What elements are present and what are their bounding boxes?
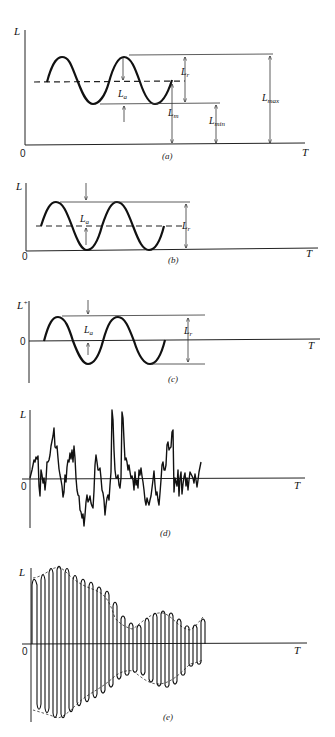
x-axis-label: T (294, 644, 301, 656)
panel-caption: (a) (162, 151, 173, 161)
panel-d: L T 0 (d) (19, 408, 305, 538)
x-axis-label: T (302, 146, 309, 158)
origin-label: 0 (22, 251, 28, 262)
alternating-label: La (79, 213, 90, 226)
panel-b: L T 0 (b) La Lr (15, 180, 318, 265)
oscillating-signal (32, 566, 205, 718)
y-axis-label: L (15, 180, 22, 192)
y-axis-label: L (13, 25, 20, 37)
y-axis-label: L (18, 566, 25, 578)
y-axis-label: L (19, 408, 26, 420)
max-label: Lmax (261, 92, 280, 105)
origin-label: 0 (22, 646, 28, 657)
max-line (62, 315, 205, 316)
panel-a: L T 0 (a) La Lr Lm Lmin Lmax (13, 25, 309, 161)
x-axis-label: T (306, 247, 313, 259)
panel-e: L T 0 (e) (18, 566, 307, 722)
panel-caption: (b) (168, 255, 179, 265)
sine-wave (47, 57, 172, 104)
origin-label: 0 (21, 481, 27, 492)
random-load-trace (30, 410, 201, 526)
x-axis-label: T (308, 339, 315, 351)
x-axis (26, 248, 318, 251)
x-axis (25, 143, 305, 145)
y-axis-label: L+ (16, 299, 28, 311)
panel-caption: (c) (168, 374, 178, 384)
max-line (129, 54, 273, 55)
x-axis-label: T (294, 479, 301, 491)
origin-label: 0 (20, 336, 26, 347)
alternating-label: La (117, 88, 128, 101)
panel-caption: (d) (160, 528, 171, 538)
alternating-label: La (83, 324, 94, 337)
panel-caption: (e) (163, 712, 173, 722)
min-line (100, 103, 220, 104)
origin-label: 0 (20, 148, 26, 159)
mean-label: Lm (167, 107, 179, 120)
panel-c: L+ T 0 (c) La Lr (16, 299, 320, 384)
load-history-figure: L T 0 (a) La Lr Lm Lmin Lmax L T 0 (0, 0, 335, 737)
min-label: Lmin (208, 115, 226, 128)
